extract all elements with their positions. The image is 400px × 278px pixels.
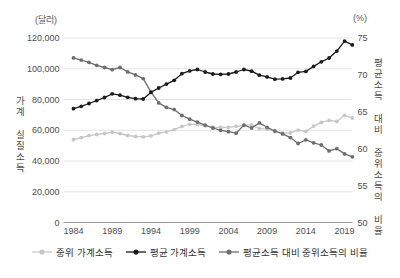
left-axis-tick-label: 0	[54, 218, 59, 228]
data-point	[227, 72, 231, 76]
data-point	[157, 86, 161, 90]
data-point	[273, 77, 277, 81]
data-point	[149, 134, 153, 138]
data-point	[350, 155, 354, 159]
right-axis-tick-label: 70	[358, 70, 368, 80]
legend-label: 평균 가계소득	[150, 245, 207, 259]
data-point	[250, 69, 254, 73]
data-point	[95, 63, 99, 67]
data-point	[296, 142, 300, 146]
data-point	[118, 66, 122, 70]
data-point	[312, 65, 316, 69]
data-point	[219, 128, 223, 132]
data-point	[343, 113, 347, 117]
data-point	[165, 82, 169, 86]
left-axis-tick-label: 100,000	[27, 64, 60, 74]
data-point	[188, 122, 192, 126]
data-point	[327, 149, 331, 153]
data-point	[289, 136, 293, 140]
data-point	[110, 92, 114, 96]
data-point	[126, 70, 130, 74]
x-axis-tick-label: 2009	[257, 226, 277, 236]
data-point	[95, 99, 99, 103]
data-point	[319, 60, 323, 64]
legend-item-3: 평균소득 대비 중위소득의 비율	[219, 245, 368, 259]
data-point	[87, 102, 91, 106]
data-point	[126, 95, 130, 99]
data-point	[134, 73, 138, 77]
legend-marker-icon	[32, 248, 52, 256]
data-point	[172, 78, 176, 82]
data-point	[327, 56, 331, 60]
legend-marker-icon	[126, 248, 146, 256]
data-point	[312, 124, 316, 128]
data-point	[72, 138, 76, 142]
data-point	[319, 121, 323, 125]
data-point	[234, 70, 238, 74]
legend-label: 중위 가계소득	[56, 245, 113, 259]
x-axis-tick-label: 2019	[335, 226, 355, 236]
data-point	[265, 75, 269, 79]
x-axis-tick-label: 1989	[102, 226, 122, 236]
left-axis-tick-label: 40,000	[32, 156, 60, 166]
legend-item-2: 평균 가계소득	[126, 245, 207, 259]
x-axis-tick-label: 1994	[141, 226, 161, 236]
data-point	[296, 128, 300, 132]
left-axis-tick-label: 20,000	[32, 187, 60, 197]
data-point	[234, 124, 238, 128]
data-point	[319, 143, 323, 147]
x-axis-tick-label: 1999	[180, 226, 200, 236]
data-point	[157, 101, 161, 105]
data-point	[211, 72, 215, 76]
data-point	[289, 131, 293, 135]
right-axis-tick-label: 65	[358, 107, 368, 117]
data-point	[327, 119, 331, 123]
data-point	[250, 126, 254, 130]
data-point	[172, 108, 176, 112]
data-point	[134, 135, 138, 139]
data-point	[281, 77, 285, 81]
right-axis-tick-label: 60	[358, 144, 368, 154]
data-point	[350, 116, 354, 120]
legend-marker-icon	[219, 248, 239, 256]
data-point	[258, 121, 262, 125]
data-point	[157, 131, 161, 135]
data-point	[312, 141, 316, 145]
data-point	[196, 120, 200, 124]
data-point	[79, 136, 83, 140]
data-point	[165, 130, 169, 134]
data-point	[118, 93, 122, 97]
data-point	[110, 130, 114, 134]
legend-item-1: 중위 가계소득	[32, 245, 113, 259]
data-point	[141, 97, 145, 101]
data-point	[180, 72, 184, 76]
data-point	[110, 68, 114, 72]
x-axis-tick-label: 2004	[218, 226, 238, 236]
data-point	[304, 70, 308, 74]
data-point	[87, 61, 91, 65]
data-point	[227, 130, 231, 134]
data-point	[304, 130, 308, 134]
data-point	[234, 131, 238, 135]
data-point	[103, 66, 107, 70]
data-point	[242, 123, 246, 127]
data-point	[335, 120, 339, 124]
data-point	[79, 58, 83, 62]
data-point	[258, 73, 262, 77]
data-point	[335, 147, 339, 151]
data-point	[149, 91, 153, 95]
legend-label: 평균소득 대비 중위소득의 비율	[243, 245, 368, 259]
data-point	[265, 125, 269, 129]
data-point	[335, 49, 339, 53]
data-point	[172, 128, 176, 132]
data-point	[343, 39, 347, 43]
data-point	[242, 68, 246, 72]
data-point	[203, 123, 207, 127]
data-point	[134, 97, 138, 101]
data-point	[211, 126, 215, 130]
data-point	[141, 77, 145, 81]
data-point	[273, 129, 277, 133]
data-point	[118, 132, 122, 136]
chart-legend: 중위 가계소득평균 가계소득평균소득 대비 중위소득의 비율	[0, 245, 400, 259]
left-axis-tick-label: 80,000	[32, 95, 60, 105]
